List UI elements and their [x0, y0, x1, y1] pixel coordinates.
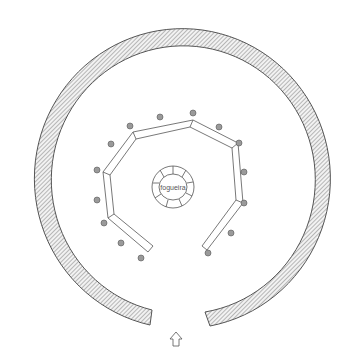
fire-label: fogueira: [160, 184, 185, 192]
hut-floor-plan: fogueira: [0, 0, 361, 360]
arrow-up-icon: [170, 332, 182, 346]
